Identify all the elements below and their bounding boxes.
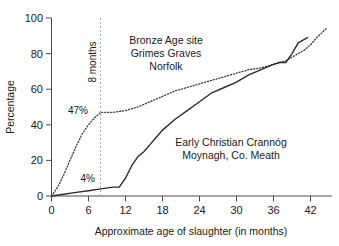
x-axis-title: Approximate age of slaughter (in months)	[95, 225, 288, 237]
x-tick-label-6: 6	[85, 204, 91, 216]
y-axis-title: Percentage	[4, 80, 16, 134]
x-tick-label-0: 0	[48, 204, 54, 216]
x-tick-label-30: 30	[230, 204, 242, 216]
y-tick-label-40: 40	[31, 119, 43, 131]
y-axis-ticks	[46, 18, 52, 196]
x-tick-label-12: 12	[119, 204, 131, 216]
slaughter-age-cumulative-chart: 0 20 40 60 80 100 0 6 12 18 24 30 36 42 …	[0, 0, 339, 246]
x-tick-label-36: 36	[267, 204, 279, 216]
crannog-line-1: Early Christian Crannóg	[175, 136, 287, 148]
annotation-bronze-age: Bronze Age site Grimes Graves Norfolk	[129, 34, 203, 72]
y-tick-label-20: 20	[31, 154, 43, 166]
x-tick-label-42: 42	[304, 204, 316, 216]
x-tick-label-18: 18	[156, 204, 168, 216]
y-tick-label-60: 60	[31, 83, 43, 95]
y-tick-label-80: 80	[31, 48, 43, 60]
x-tick-label-24: 24	[193, 204, 205, 216]
annotation-crannog: Early Christian Crannóg Moynagh, Co. Mea…	[175, 136, 287, 161]
y-tick-label-100: 100	[25, 12, 43, 24]
y-tick-label-0: 0	[37, 190, 43, 202]
reference-line-label: 8 months	[87, 41, 98, 82]
callout-47-percent: 47%	[68, 105, 88, 116]
x-axis-ticks	[52, 196, 311, 202]
crannog-line-2: Moynagh, Co. Meath	[182, 149, 280, 161]
bronze-age-line-3: Norfolk	[149, 60, 183, 72]
bronze-age-line-2: Grimes Graves	[131, 47, 202, 59]
bronze-age-line-1: Bronze Age site	[129, 34, 203, 46]
chart-container: 0 20 40 60 80 100 0 6 12 18 24 30 36 42 …	[0, 0, 339, 246]
callout-4-percent: 4%	[81, 173, 96, 184]
